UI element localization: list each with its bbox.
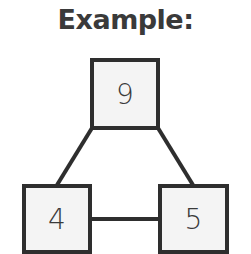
node-bottom-right-value: 5 xyxy=(185,203,203,236)
edge-top-left xyxy=(57,128,92,185)
node-bottom-left-value: 4 xyxy=(48,203,66,236)
node-top: 9 xyxy=(90,58,160,130)
edge-top-right xyxy=(158,128,193,185)
node-top-value: 9 xyxy=(116,78,134,111)
node-bottom-left: 4 xyxy=(22,184,92,254)
node-bottom-right: 5 xyxy=(158,184,229,254)
